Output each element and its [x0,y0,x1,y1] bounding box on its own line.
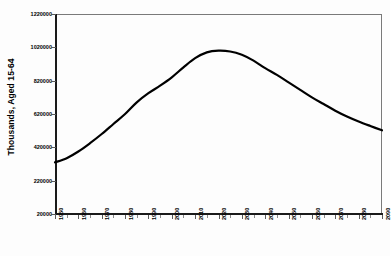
x-axis-tick-label: 1990 [151,208,157,220]
x-axis-tick-label: 2030 [244,208,250,220]
x-axis-minor-tick-mark [300,215,301,218]
y-axis-tick-mark [51,14,56,15]
x-axis-tick-label: 2010 [198,208,204,220]
x-axis-minor-tick-mark [324,215,325,218]
x-axis-tick-label: 2090 [385,208,391,220]
y-axis-tick-mark [51,47,56,48]
x-axis-tick-label: 2060 [315,208,321,220]
y-axis-tick-label: 620000 [18,111,52,117]
x-axis-tick-label: 2050 [291,208,297,220]
x-axis-tick-label: 1950 [58,208,64,220]
y-axis-tick-label: 1220000 [18,11,52,17]
y-axis-tick-label: 220000 [18,178,52,184]
x-axis-minor-tick-mark [90,215,91,218]
y-axis-tick-mark [51,114,56,115]
x-axis-minor-tick-mark [230,215,231,218]
x-axis-minor-tick-mark [207,215,208,218]
x-axis-tick-label: 2000 [174,208,180,220]
y-axis-tick-label: 20000 [18,211,52,217]
x-axis-minor-tick-mark [347,215,348,218]
y-axis-tick-label: 1020000 [18,44,52,50]
y-axis-label-text: Thousands, Aged 15-64 [6,58,16,155]
x-axis-tick-label: 2070 [338,208,344,220]
x-axis-tick-label: 1970 [104,208,110,220]
x-axis-minor-tick-mark [113,215,114,218]
x-axis-tick-label: 2040 [268,208,274,220]
x-axis-tick-labels: 1950196019701980199020002010202020302040… [0,219,390,256]
y-axis-tick-label: 420000 [18,144,52,150]
x-axis-minor-tick-mark [67,215,68,218]
x-axis-tick-label: 1960 [81,208,87,220]
y-axis-tick-mark [51,81,56,82]
x-axis-minor-tick-mark [160,215,161,218]
y-axis-tick-label: 820000 [18,78,52,84]
x-axis-tick-label: 1980 [128,208,134,220]
x-axis-tick-label: 2020 [221,208,227,220]
x-axis-minor-tick-mark [137,215,138,218]
y-axis-tick-labels: 2000022000042000062000082000010200001220… [18,0,52,220]
y-axis-tick-mark [51,181,56,182]
y-axis-tick-mark [51,147,56,148]
x-axis-minor-tick-mark [254,215,255,218]
x-axis-minor-tick-mark [183,215,184,218]
plot-area-frame [55,14,382,214]
x-axis-tick-label: 2080 [361,208,367,220]
x-axis-minor-tick-mark [370,215,371,218]
x-axis-minor-tick-mark [277,215,278,218]
